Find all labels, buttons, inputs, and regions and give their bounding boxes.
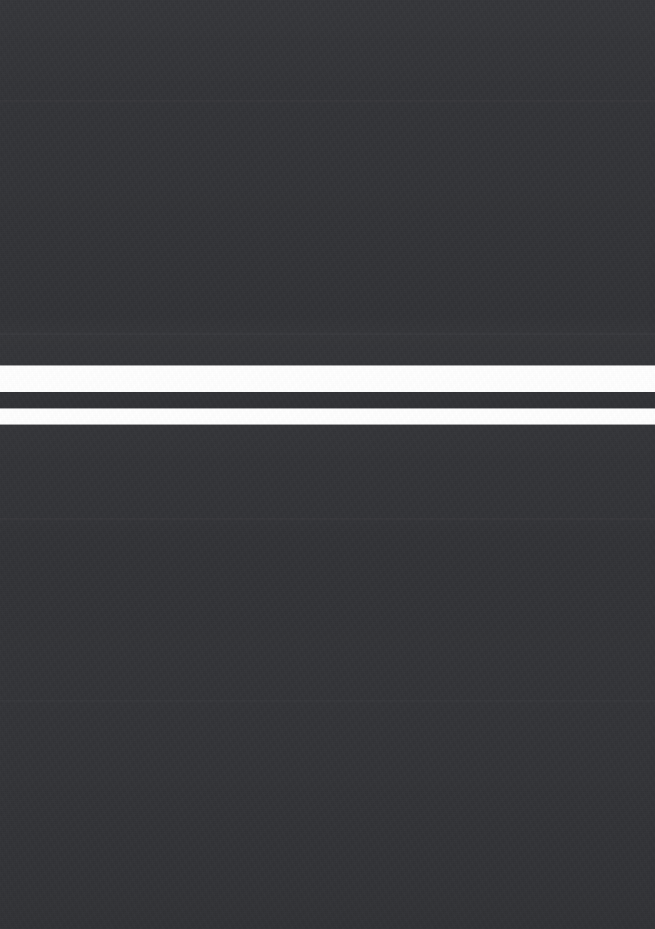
lower-empty-region [0, 424, 655, 929]
dark-separator-band [0, 392, 655, 409]
lower-white-band [0, 409, 655, 424]
screen-capture [0, 0, 655, 929]
upper-white-band [0, 366, 655, 392]
upper-empty-region [0, 0, 655, 366]
